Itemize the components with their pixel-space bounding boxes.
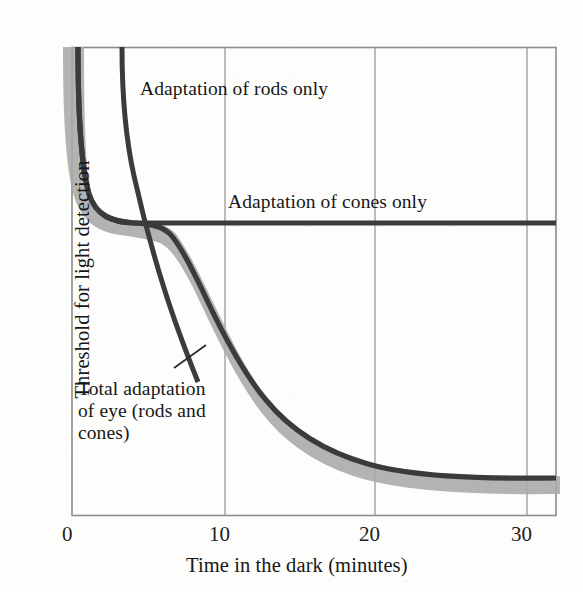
rods-annotation: Adaptation of rods only	[140, 78, 328, 100]
total-adaptation-annotation-line1: Total adaptation	[78, 378, 205, 399]
total-adaptation-annotation: Total adaptation of eye (rods and cones)	[78, 378, 238, 443]
x-tick-label-20: 20	[359, 524, 380, 545]
x-gridlines	[225, 48, 527, 516]
x-tick-label-30: 30	[511, 524, 532, 545]
x-tick-label-0: 0	[62, 524, 73, 545]
y-axis-title: Threshold for light detection	[71, 130, 94, 430]
total-adaptation-annotation-line2: of eye (rods and	[78, 400, 206, 421]
x-axis-title: Time in the dark (minutes)	[186, 554, 408, 577]
cones-annotation: Adaptation of cones only	[228, 191, 427, 213]
dark-adaptation-figure: 0 10 20 30 Adaptation of rods only Adapt…	[0, 0, 583, 592]
x-tick-label-10: 10	[209, 524, 230, 545]
